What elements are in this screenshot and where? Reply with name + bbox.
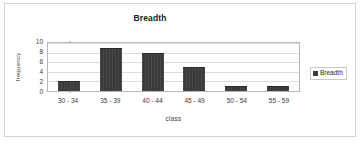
bar-slot xyxy=(132,43,174,91)
legend-color-swatch-icon xyxy=(313,71,318,76)
bar-slot xyxy=(257,43,299,91)
bar-slot xyxy=(215,43,257,91)
y-axis-tick-label: 6 xyxy=(29,59,43,66)
bar[interactable] xyxy=(267,86,289,91)
bar[interactable] xyxy=(58,81,80,91)
x-axis-tick-label: 45 - 49 xyxy=(174,97,216,104)
x-axis-tick-label: 35 - 39 xyxy=(89,97,131,104)
x-axis-tick-label: 50 - 54 xyxy=(216,97,258,104)
bar-slot xyxy=(90,43,132,91)
chart-window: Breadth frequency 1086420 30 - 3435 - 39… xyxy=(4,3,356,137)
y-axis-tick-label: 0 xyxy=(29,89,43,96)
y-axis-tick-label: 10 xyxy=(29,39,43,46)
bar[interactable] xyxy=(100,48,122,91)
x-axis-tick-label: 40 - 44 xyxy=(131,97,173,104)
y-axis-tick-label: 2 xyxy=(29,79,43,86)
x-axis-tick-labels: 30 - 3435 - 3940 - 4445 - 4950 - 5455 - … xyxy=(47,97,300,104)
x-axis-tick-label: 55 - 59 xyxy=(258,97,300,104)
bar-slot xyxy=(48,43,90,91)
chart-title: Breadth xyxy=(5,13,295,23)
y-axis-tick-label: 8 xyxy=(29,49,43,56)
plot-area xyxy=(47,42,300,92)
legend-series-label: Breadth xyxy=(320,70,343,77)
x-axis-tick-label: 30 - 34 xyxy=(47,97,89,104)
bar[interactable] xyxy=(142,53,164,91)
y-axis-tick-labels: 1086420 xyxy=(29,42,43,92)
bar-slot xyxy=(173,43,215,91)
bar[interactable] xyxy=(183,67,205,91)
bar[interactable] xyxy=(225,86,247,91)
y-axis-title: frequency xyxy=(14,53,21,82)
x-axis-title: class xyxy=(47,115,300,122)
y-axis-tick-label: 4 xyxy=(29,69,43,76)
chart-legend: Breadth xyxy=(310,67,347,80)
bars-layer xyxy=(48,43,299,91)
